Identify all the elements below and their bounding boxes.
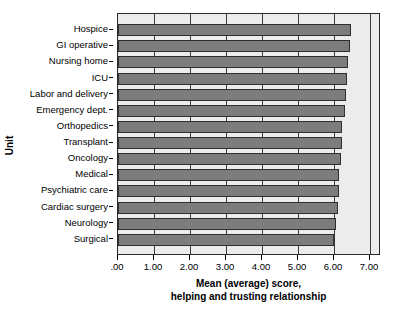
x-axis-tick-label: 2.00 [180,261,199,272]
y-axis-tick-mark [109,222,113,223]
y-axis-tick-label: Labor and delivery [30,89,113,99]
bar [118,137,342,149]
x-axis-tick-mark [333,255,334,260]
gridline [370,14,371,254]
y-axis-tick: Nursing home [16,53,113,69]
y-axis-tick: Surgical [16,231,113,247]
y-axis-tick: Emergency dept. [16,102,113,118]
bar [118,73,347,85]
bar [118,56,348,68]
bar-chart-figure: Unit HospiceGI operativeNursing homeICUL… [0,0,396,318]
y-axis-tick: Labor and delivery [16,86,113,102]
x-axis-tick-mark [369,255,370,260]
y-axis-tick-label: Transplant [63,137,113,147]
x-axis-tick-label: .00 [110,261,123,272]
y-axis-tick-mark [109,174,113,175]
bar [118,185,339,197]
y-axis-tick-mark [109,190,113,191]
y-axis-tick: Transplant [16,134,113,150]
x-axis-tick-labels: .001.002.003.004.005.006.007.00 [117,261,380,275]
y-axis-tick: Cardiac surgery [16,199,113,215]
y-axis-tick-label: Medical [75,169,113,179]
x-axis-tick-label: 3.00 [216,261,235,272]
y-axis-tick-mark [109,206,113,207]
x-axis-tick-mark [117,255,118,260]
y-axis-tick: Oncology [16,150,113,166]
y-axis-tick-label: Cardiac surgery [41,202,113,212]
x-axis-title-line-2: helping and trusting relationship [117,290,380,303]
x-axis-tick-label: 6.00 [324,261,343,272]
y-axis-tick: Psychiatric care [16,182,113,198]
y-axis-tick-mark [109,77,113,78]
bar [118,105,345,117]
y-axis-tick-label: Orthopedics [57,121,113,131]
y-axis-tick-mark [109,158,113,159]
bar [118,218,336,230]
bar [118,153,341,165]
bar [118,169,339,181]
y-axis-tick-label: Surgical [74,234,113,244]
y-axis-tick-label: GI operative [56,40,113,50]
plot-area [117,13,380,255]
x-axis-tick-label: 1.00 [144,261,163,272]
bar [118,202,338,214]
y-axis-title-text: Unit [5,135,16,154]
bar [118,234,334,246]
bar [118,40,350,52]
y-axis-tick-label: Oncology [68,153,113,163]
x-axis-tick-label: 4.00 [252,261,271,272]
y-axis-tick-mark [109,109,113,110]
y-axis-tick: GI operative [16,37,113,53]
y-axis-tick: Medical [16,166,113,182]
y-axis-tick-mark [109,93,113,94]
bar [118,24,351,36]
y-axis-tick-labels: HospiceGI operativeNursing homeICULabor … [16,13,113,255]
y-axis-tick-label: Psychiatric care [41,185,113,195]
bar [118,89,346,101]
y-axis-tick-label: Hospice [74,24,113,34]
y-axis-tick-mark [109,29,113,30]
y-axis-tick-mark [109,125,113,126]
x-axis-tick-mark [225,255,226,260]
x-axis-tick-mark [261,255,262,260]
x-axis-tick-label: 7.00 [360,261,379,272]
y-axis-tick-label: Neurology [65,218,113,228]
x-axis-title: Mean (average) score, helping and trusti… [117,277,380,303]
x-axis-tick-mark [153,255,154,260]
y-axis-tick: Orthopedics [16,118,113,134]
y-axis-tick-mark [109,45,113,46]
y-axis-tick-label: Emergency dept. [36,105,113,115]
bar [118,121,342,133]
x-axis-title-line-1: Mean (average) score, [117,277,380,290]
y-axis-tick: ICU [16,70,113,86]
y-axis-tick-mark [109,238,113,239]
y-axis-tick: Hospice [16,21,113,37]
x-axis-tick-mark [297,255,298,260]
y-axis-tick: Neurology [16,215,113,231]
y-axis-tick-mark [109,61,113,62]
y-axis-tick-mark [109,142,113,143]
x-axis-tick-mark [189,255,190,260]
y-axis-tick-label: Nursing home [49,56,113,66]
x-axis-tick-label: 5.00 [288,261,307,272]
